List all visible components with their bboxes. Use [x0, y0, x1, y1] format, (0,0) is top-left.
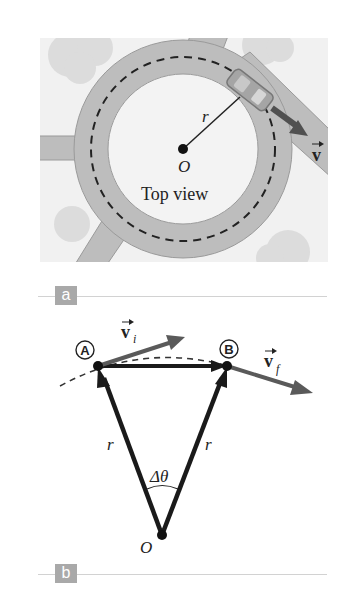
velocity-label: v [312, 145, 321, 165]
panel-a-top-view: r O Top view v [0, 0, 348, 290]
point-b-label: B [224, 342, 233, 357]
dashed-arc [60, 358, 228, 386]
separator-a [38, 296, 327, 297]
angle-label: Δθ [149, 467, 168, 486]
vector-triangle-diagram: A B v i v f r r Δθ O [0, 300, 348, 560]
point-b [222, 361, 232, 371]
center-label: O [178, 157, 190, 176]
roundabout-diagram: r O Top view v [0, 0, 348, 290]
angle-arc [147, 486, 178, 490]
radius-right-label: r [205, 435, 212, 454]
radius-left-label: r [107, 435, 114, 454]
radius-label: r [202, 107, 209, 126]
radius-vector-right [162, 378, 222, 535]
vf-label: v [264, 351, 273, 371]
top-view-caption: Top view [141, 184, 208, 204]
vf-subscript: f [276, 362, 281, 376]
panel-tag-b: b [55, 564, 77, 583]
separator-b [38, 574, 327, 575]
point-a [93, 361, 103, 371]
center-point [178, 144, 188, 154]
velocity-final-arrow [227, 366, 298, 388]
radius-vector-left [104, 378, 162, 535]
origin-label: O [140, 538, 152, 557]
vi-label: v [121, 322, 130, 342]
origin-point [157, 530, 167, 540]
panel-b-vector-diagram: A B v i v f r r Δθ O [0, 300, 348, 560]
vi-subscript: i [133, 332, 136, 346]
point-a-label: A [80, 343, 90, 358]
